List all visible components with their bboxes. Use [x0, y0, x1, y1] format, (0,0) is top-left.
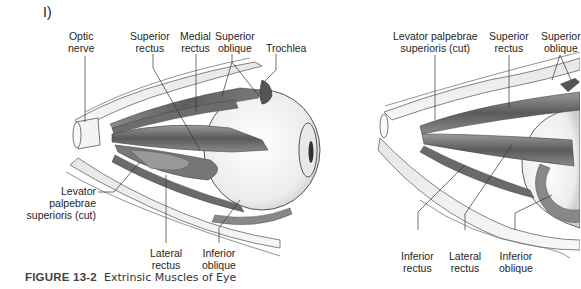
label-line: rectus [150, 259, 182, 271]
label-levator-left: Levator palpebrae superioris (cut) [22, 185, 96, 221]
label-medial-rectus: Medial rectus [180, 30, 211, 54]
label-line: rectus [449, 262, 481, 274]
label-line: Levator [22, 185, 96, 197]
right-eye-view [378, 52, 580, 258]
label-inferior-oblique-left: Inferior oblique [202, 247, 236, 271]
label-lateral-rectus-right: Lateral rectus [449, 250, 481, 274]
label-superior-rectus-left: Superior rectus [130, 30, 170, 54]
panel-label: I) [43, 4, 52, 20]
label-line: superioris (cut) [393, 42, 478, 54]
label-line: rectus [401, 262, 434, 274]
label-line: Superior [489, 30, 529, 42]
label-line: Superior [215, 30, 255, 42]
label-line: palpebrae [22, 197, 96, 209]
label-lateral-rectus-left: Lateral rectus [150, 247, 182, 271]
label-superior-rectus-right: Superior rectus [489, 30, 529, 54]
label-line: Superior [541, 30, 581, 42]
label-line: Lateral [150, 247, 182, 259]
label-trochlea: Trochlea [266, 42, 306, 54]
label-line: nerve [68, 42, 94, 54]
label-line: oblique [499, 262, 533, 274]
label-superior-oblique-right: Superior oblique [541, 30, 581, 54]
label-line: Trochlea [266, 42, 306, 54]
label-inferior-rectus: Inferior rectus [401, 250, 434, 274]
label-inferior-oblique-right: Inferior oblique [499, 250, 533, 274]
label-line: Inferior [202, 247, 236, 259]
figure-caption: FIGURE 13-2 Extrinsic Muscles of Eye [25, 271, 236, 284]
label-line: Optic [68, 30, 94, 42]
label-line: superioris (cut) [22, 209, 96, 221]
label-superior-oblique-left: Superior oblique [215, 30, 255, 54]
label-optic-nerve: Optic nerve [68, 30, 94, 54]
label-line: Superior [130, 30, 170, 42]
figure-number: FIGURE 13-2 [25, 271, 97, 283]
label-line: Lateral [449, 250, 481, 262]
left-eye-view [66, 58, 320, 256]
label-levator-right: Levator palpebrae superioris (cut) [393, 30, 478, 54]
label-line: Levator palpebrae [393, 30, 478, 42]
label-line: oblique [541, 42, 581, 54]
label-line: Medial [180, 30, 211, 42]
label-line: rectus [489, 42, 529, 54]
label-line: oblique [215, 42, 255, 54]
figure-title: Extrinsic Muscles of Eye [104, 271, 236, 284]
label-line: Inferior [499, 250, 533, 262]
label-line: rectus [130, 42, 170, 54]
label-line: oblique [202, 259, 236, 271]
label-line: Inferior [401, 250, 434, 262]
label-line: rectus [180, 42, 211, 54]
